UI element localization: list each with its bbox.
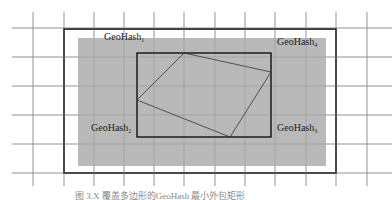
label-geohash-3: GeoHash3	[277, 122, 317, 134]
label-geohash-2: GeoHash2	[91, 122, 131, 134]
label-text: GeoHash	[277, 122, 314, 133]
label-text: GeoHash	[104, 31, 141, 42]
label-subscript: 4	[314, 42, 317, 48]
label-subscript: 2	[128, 128, 131, 134]
label-geohash-4: GeoHash4	[277, 36, 317, 48]
label-text: GeoHash	[91, 122, 128, 133]
label-text: GeoHash	[277, 36, 314, 47]
label-geohash-1: GeoHash1	[104, 31, 144, 43]
label-subscript: 1	[141, 37, 144, 43]
label-subscript: 3	[314, 128, 317, 134]
geohash-diagram	[0, 0, 392, 200]
diagram-canvas: GeoHash1 GeoHash4 GeoHash2 GeoHash3 图 3.…	[0, 0, 392, 200]
figure-caption: 图 3.X 覆盖多边形的GeoHash 最小外包矩形	[75, 189, 246, 200]
